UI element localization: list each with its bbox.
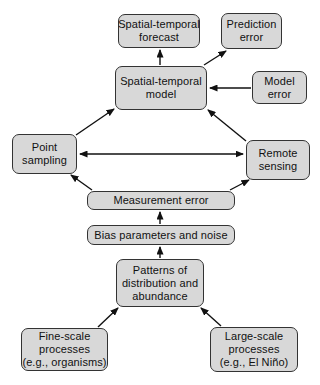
node-label-line: Large-scale [225, 330, 284, 343]
arrow-remote-sensing-to-model [208, 110, 246, 141]
node-label-line: Bias parameters and noise [94, 229, 227, 242]
node-label-line: Fine-scale [39, 330, 91, 343]
node-fine-scale-processes: Fine-scaleprocesses(e.g., organisms) [21, 328, 108, 371]
node-label-line: error [240, 31, 264, 44]
node-label-line: error [268, 88, 292, 101]
arrow-large-scale-to-patterns [201, 308, 221, 326]
node-label-line: sampling [22, 154, 67, 167]
node-label-line: Spatial-temporal [118, 18, 200, 31]
node-prediction-error: Predictionerror [221, 13, 282, 49]
node-label-line: Spatial-temporal [120, 75, 202, 88]
arrow-measurement-error-to-remote-sensing [230, 180, 249, 190]
node-label-line: processes [228, 343, 279, 356]
node-label-line: Remote [258, 147, 297, 160]
node-remote-sensing: Remotesensing [246, 140, 310, 180]
node-label-line: Patterns of [133, 264, 187, 277]
node-measurement-error: Measurement error [87, 191, 235, 210]
arrow-point-sampling-to-model [76, 109, 114, 135]
node-label-line: (e.g., El Niño) [220, 356, 289, 369]
node-bias-parameters-and-noise: Bias parameters and noise [87, 225, 235, 245]
node-label-line: Model [264, 75, 294, 88]
node-point-sampling: Pointsampling [12, 134, 77, 174]
node-patterns-of-distribution-and-abundance: Patterns ofdistribution andabundance [116, 259, 204, 307]
node-label-line: Measurement error [113, 194, 208, 207]
arrow-measurement-error-to-point-sampling [71, 175, 92, 190]
node-label-line: Prediction [227, 18, 277, 31]
node-label-line: abundance [132, 290, 187, 303]
node-label-line: model [146, 88, 176, 101]
node-label-line: Point [32, 141, 58, 154]
arrow-model-to-prediction-error [204, 51, 226, 65]
node-model-error: Modelerror [252, 71, 307, 104]
node-label-line: forecast [139, 31, 179, 44]
arrow-fine-scale-to-patterns [98, 308, 118, 327]
node-spatial-temporal-model: Spatial-temporalmodel [115, 66, 207, 110]
node-label-line: distribution and [122, 277, 198, 290]
node-spatial-temporal-forecast: Spatial-temporalforecast [118, 14, 200, 48]
node-label-line: sensing [259, 160, 298, 173]
diagram-canvas: Spatial-temporalforecastPredictionerrorS… [0, 0, 320, 385]
node-label-line: processes [39, 343, 90, 356]
node-large-scale-processes: Large-scaleprocesses(e.g., El Niño) [210, 327, 298, 372]
node-label-line: (e.g., organisms) [22, 356, 106, 369]
